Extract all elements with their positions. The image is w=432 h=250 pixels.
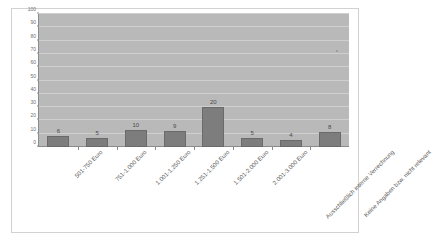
plot-wrapper: 0102030405060708090100 6510920548: [38, 14, 349, 147]
bar: [202, 107, 224, 147]
bar: [47, 136, 69, 147]
bar: [125, 130, 147, 147]
x-axis-category-label: 751-1.000 Euro: [114, 149, 148, 183]
bar: [280, 140, 302, 147]
bar-slot: 9: [155, 14, 194, 147]
bar-value-label: 5: [78, 130, 117, 137]
bar-slot: 4: [272, 14, 311, 147]
bar-series: 6510920548: [39, 14, 349, 147]
bar-value-label: 9: [155, 123, 194, 130]
bar-slot: 5: [233, 14, 272, 147]
bar-value-label: 4: [272, 132, 311, 139]
y-axis-tick-label: 50: [30, 73, 36, 78]
x-axis-category-label: Keine Angaben bzw. nicht relevant: [362, 149, 432, 219]
y-axis-tick-label: 30: [30, 100, 36, 105]
plot-area: 0102030405060708090100 6510920548: [38, 14, 349, 147]
x-axis-category-labels: 501-750 Euro751-1.000 Euro1.001-1.250 Eu…: [38, 149, 349, 229]
bar-value-label: 10: [117, 122, 156, 129]
bar: [241, 138, 263, 147]
bar: [164, 131, 186, 147]
bar: [86, 138, 108, 147]
bar-value-label: 8: [310, 124, 349, 131]
y-axis-tick-label: 40: [30, 86, 36, 91]
y-axis-tick-label: 80: [30, 33, 36, 38]
x-axis-category-label: 1.251-1.500 Euro: [194, 149, 232, 187]
y-axis-tick-label: 60: [30, 60, 36, 65]
y-axis-tick-label: 20: [30, 113, 36, 118]
bar-value-label: 20: [194, 99, 233, 106]
bar-slot: 6: [39, 14, 78, 147]
cutoff-title: [0, 0, 373, 6]
x-axis-category-label: 1.501-2.000 Euro: [233, 149, 271, 187]
bar-value-label: 5: [233, 130, 272, 137]
chart-figure: 0102030405060708090100 6510920548 501-75…: [11, 8, 359, 233]
y-axis-tick-label: 10: [30, 126, 36, 131]
bar-slot: 10: [117, 14, 156, 147]
bar-slot: 5: [78, 14, 117, 147]
y-axis-tick-label: 0: [33, 140, 36, 145]
x-axis-category-label: 2.001-3.000 Euro: [271, 149, 309, 187]
scan-artifact-speck: [336, 50, 338, 52]
bar-value-label: 6: [39, 128, 78, 135]
bar-slot: 20: [194, 14, 233, 147]
bar-slot: 8: [310, 14, 349, 147]
y-axis-tick-label: 70: [30, 46, 36, 51]
y-axis-tick-label: 90: [30, 20, 36, 25]
x-axis-category-label: 1.001-1.250 Euro: [155, 149, 193, 187]
y-axis-tick-label: 100: [28, 7, 36, 12]
x-axis-category-label: Ausschließlich interne Verrechnung: [324, 149, 395, 220]
bar: [319, 132, 341, 147]
x-axis-category-label: 501-750 Euro: [74, 149, 105, 180]
